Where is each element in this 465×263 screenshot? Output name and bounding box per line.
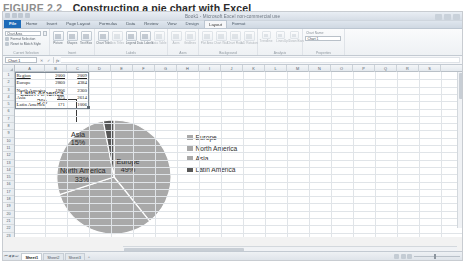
row-header-12[interactable]: 12 bbox=[3, 152, 14, 159]
row-header-17[interactable]: 17 bbox=[3, 189, 14, 196]
row-header-10[interactable]: 10 bbox=[3, 138, 14, 145]
data-table-button[interactable]: Data Table bbox=[153, 30, 165, 45]
chart-wall-button[interactable]: Chart Wall bbox=[215, 30, 227, 45]
tab-data[interactable]: Data bbox=[122, 20, 140, 28]
row-header-2[interactable]: 2 bbox=[3, 79, 14, 86]
gridlines-button[interactable]: Gridlines bbox=[184, 30, 196, 45]
row-header-19[interactable]: 19 bbox=[3, 203, 14, 210]
normal-view-icon[interactable] bbox=[394, 254, 399, 259]
sheet-nav-last-icon[interactable]: ⏭ bbox=[15, 252, 18, 260]
maximize-button[interactable] bbox=[444, 14, 451, 20]
up-down-bars-button[interactable]: Up/Down Bars bbox=[288, 30, 300, 43]
cell-B4[interactable]: 875 bbox=[45, 94, 65, 101]
worksheet-grid[interactable]: ABCDEFGHIJKLMNOPQRS 12345678910111213141… bbox=[3, 65, 462, 237]
trendline-button[interactable]: Trendline bbox=[260, 30, 272, 43]
sheet-tab-sheet1[interactable]: Sheet1 bbox=[21, 253, 42, 260]
page-break-view-icon[interactable] bbox=[407, 254, 412, 259]
column-header-h[interactable]: H bbox=[177, 65, 199, 72]
zoom-slider-handle[interactable] bbox=[434, 254, 436, 259]
chart-element-chevron-down-icon[interactable] bbox=[43, 31, 47, 36]
cell-B5[interactable]: 171 bbox=[45, 101, 65, 108]
window-controls[interactable] bbox=[435, 14, 460, 20]
cell-A2[interactable]: Europe bbox=[17, 79, 45, 86]
column-header-g[interactable]: G bbox=[155, 65, 177, 72]
cell-C4[interactable]: 2614 bbox=[67, 94, 87, 101]
chart-floor-button[interactable]: Chart Floor bbox=[229, 30, 241, 45]
column-header-o[interactable]: O bbox=[331, 65, 353, 72]
row-header-6[interactable]: 6 bbox=[3, 108, 14, 115]
enter-formula-icon[interactable]: ✓ bbox=[46, 58, 51, 63]
cell-C3[interactable]: 2360 bbox=[67, 87, 87, 94]
reset-to-match-style-button[interactable]: Reset to Match Style bbox=[5, 42, 47, 46]
column-header-d[interactable]: D bbox=[89, 65, 111, 72]
tab-review[interactable]: Review bbox=[140, 20, 163, 28]
row-header-14[interactable]: 14 bbox=[3, 167, 14, 174]
plot-area-button[interactable]: Plot Area bbox=[201, 30, 213, 45]
cell-B3[interactable]: 1906 bbox=[45, 87, 65, 94]
tab-format[interactable]: Format bbox=[227, 20, 250, 28]
cell-C1[interactable]: 2009 bbox=[67, 72, 87, 79]
row-header-8[interactable]: 8 bbox=[3, 123, 14, 130]
vertical-scrollbar[interactable] bbox=[457, 72, 462, 228]
chart-title-button[interactable]: Chart Title bbox=[97, 30, 109, 45]
column-header-b[interactable]: B bbox=[45, 65, 67, 72]
row-header-13[interactable]: 13 bbox=[3, 160, 14, 167]
row-header-23[interactable]: 23 bbox=[3, 233, 14, 237]
column-header-k[interactable]: K bbox=[243, 65, 265, 72]
axes-button[interactable]: Axes bbox=[170, 30, 182, 45]
cell-B2[interactable]: 2860 bbox=[45, 79, 65, 86]
tab-page-layout[interactable]: Page Layout bbox=[62, 20, 95, 28]
sheet-nav-prev-icon[interactable]: ◀ bbox=[8, 252, 11, 260]
tab-view[interactable]: View bbox=[163, 20, 181, 28]
formula-input[interactable] bbox=[61, 57, 460, 64]
column-header-m[interactable]: M bbox=[287, 65, 309, 72]
insert-shapes-button[interactable]: Shapes bbox=[66, 30, 78, 45]
sheet-nav-buttons[interactable]: ⏮ ◀ ▶ ⏭ bbox=[4, 252, 18, 260]
sheet-tab-sheet3[interactable]: Sheet3 bbox=[65, 253, 85, 260]
insert-picture-button[interactable]: Picture bbox=[52, 30, 64, 45]
row-header-15[interactable]: 15 bbox=[3, 174, 14, 181]
column-header-f[interactable]: F bbox=[133, 65, 155, 72]
column-header-s[interactable]: S bbox=[419, 65, 441, 72]
minimize-button[interactable] bbox=[435, 14, 442, 20]
sheet-nav-next-icon[interactable]: ▶ bbox=[12, 252, 15, 260]
close-button[interactable] bbox=[453, 14, 460, 20]
format-selection-button[interactable]: Format Selection bbox=[5, 37, 47, 41]
cancel-formula-icon[interactable]: ✕ bbox=[39, 58, 44, 63]
tab-file[interactable]: File bbox=[4, 20, 21, 28]
cell-C5[interactable]: 1006 bbox=[67, 101, 87, 108]
column-header-l[interactable]: L bbox=[265, 65, 287, 72]
column-header-q[interactable]: Q bbox=[375, 65, 397, 72]
row-header-21[interactable]: 21 bbox=[3, 218, 14, 225]
ribbon-tab-strip[interactable]: File Home Insert Page Layout Formulas Da… bbox=[3, 21, 462, 29]
data-labels-button[interactable]: Data Labels bbox=[139, 30, 151, 45]
cell-B1[interactable]: 2000 bbox=[45, 72, 65, 79]
chart-name-input[interactable]: Chart 1 bbox=[305, 36, 341, 41]
tab-layout[interactable]: Layout bbox=[204, 20, 228, 28]
row-header-7[interactable]: 7 bbox=[3, 116, 14, 123]
name-box[interactable]: Chart 1 bbox=[5, 57, 37, 64]
column-header-r[interactable]: R bbox=[397, 65, 419, 72]
page-layout-view-icon[interactable] bbox=[401, 254, 406, 259]
cell-area[interactable]: Latin America 3% Asia 15% Europe 49% Nor… bbox=[15, 72, 462, 237]
cell-A1[interactable]: Region bbox=[17, 72, 45, 79]
tab-home[interactable]: Home bbox=[21, 20, 41, 28]
cell-C2[interactable]: 4384 bbox=[67, 79, 87, 86]
select-all-corner[interactable] bbox=[3, 65, 15, 72]
legend-button[interactable]: Legend bbox=[125, 30, 137, 45]
row-header-22[interactable]: 22 bbox=[3, 225, 14, 232]
cell-A4[interactable]: Asia bbox=[17, 94, 45, 101]
row-header-18[interactable]: 18 bbox=[3, 196, 14, 203]
column-header-a[interactable]: A bbox=[15, 65, 45, 72]
sheet-nav-first-icon[interactable]: ⏮ bbox=[4, 252, 7, 260]
zoom-slider[interactable] bbox=[414, 256, 460, 257]
cell-A5[interactable]: Latin America bbox=[17, 101, 45, 108]
column-header-p[interactable]: P bbox=[353, 65, 375, 72]
tab-formulas[interactable]: Formulas bbox=[95, 20, 122, 28]
row-header-1[interactable]: 1 bbox=[3, 72, 14, 79]
tab-insert[interactable]: Insert bbox=[42, 20, 62, 28]
column-header-j[interactable]: J bbox=[221, 65, 243, 72]
column-header-i[interactable]: I bbox=[199, 65, 221, 72]
vertical-scrollbar-thumb[interactable] bbox=[459, 73, 463, 99]
chart-element-selector[interactable]: Chart Area bbox=[5, 31, 41, 36]
